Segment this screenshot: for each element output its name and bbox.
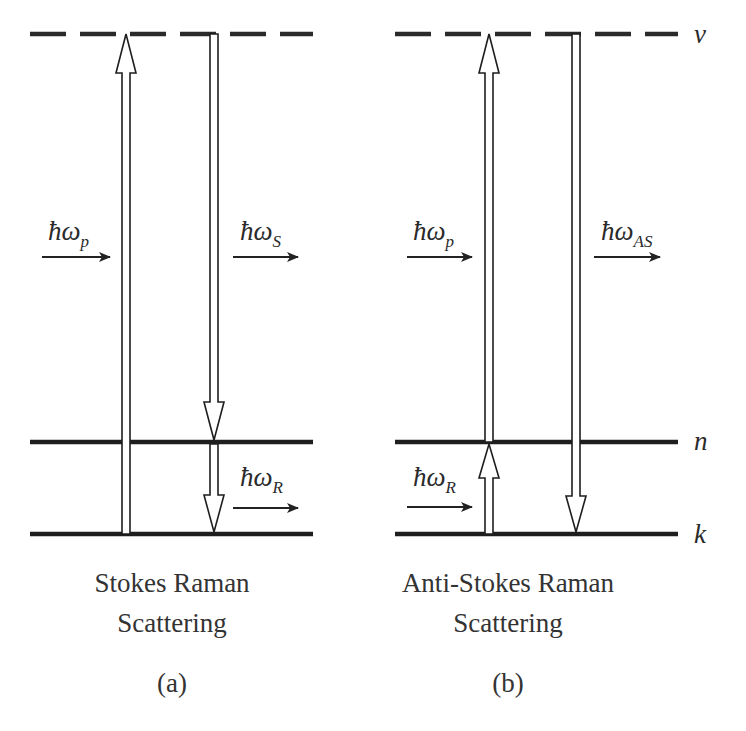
pump-photon-label-a: ħωp xyxy=(48,216,89,251)
relax-transition-arrow-a xyxy=(204,444,224,532)
anti-stokes-photon-label-b: ħωAS xyxy=(601,216,653,251)
raman-photon-label-a: ħωR xyxy=(240,462,284,497)
anti-stokes-transition-arrow-b xyxy=(566,34,586,532)
caption-line1-b: Anti-Stokes Raman xyxy=(402,568,615,598)
pump-transition-arrow-b xyxy=(479,34,499,442)
stokes-photon-label-a: ħωS xyxy=(240,216,282,251)
raman-transition-arrow-b xyxy=(479,444,499,534)
raman-photon-label-b: ħωR xyxy=(413,462,457,497)
panel-a-stokes: ħωp ħωS ħωR Stokes Raman Scattering (a) xyxy=(30,34,313,698)
caption-line1-a: Stokes Raman xyxy=(94,568,250,598)
ground-level-label: k xyxy=(694,519,707,549)
pump-photon-label-b: ħωp xyxy=(413,216,454,251)
stokes-transition-arrow-a xyxy=(204,34,224,440)
caption-line2-a: Scattering xyxy=(117,608,226,638)
virtual-level-label: ν xyxy=(694,19,706,49)
raman-scattering-diagram: ħωp ħωS ħωR Stokes Raman Scattering (a) … xyxy=(0,0,746,731)
pump-transition-arrow-a xyxy=(116,34,136,534)
upper-level-label: n xyxy=(694,426,708,456)
panel-b-anti-stokes: ħωp ħωAS ħωR ν n k Anti-Stokes Raman Sca… xyxy=(395,19,708,698)
panel-label-b: (b) xyxy=(492,668,523,698)
caption-line2-b: Scattering xyxy=(453,608,562,638)
panel-label-a: (a) xyxy=(157,668,187,698)
